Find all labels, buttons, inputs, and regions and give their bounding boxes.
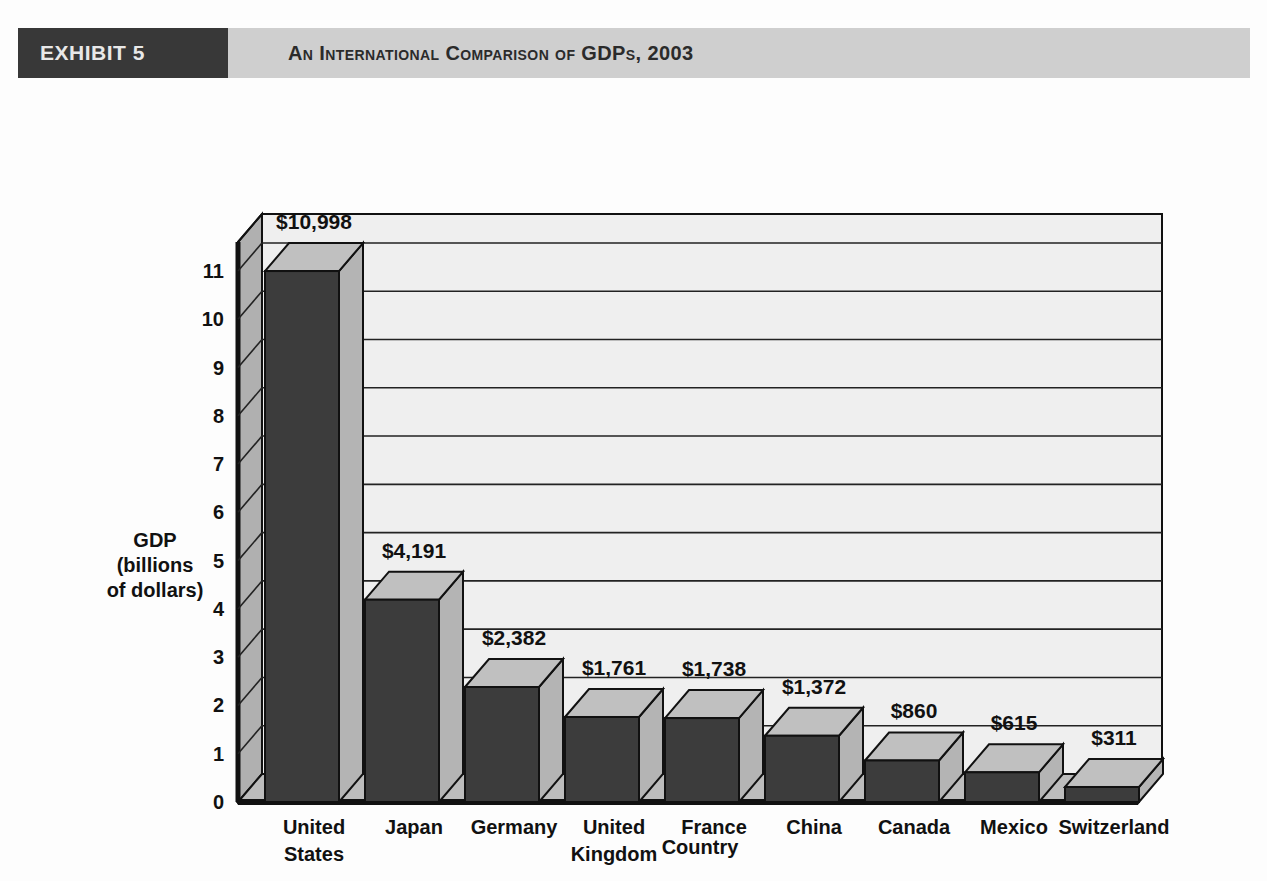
y-tick-label-2: 2: [213, 694, 224, 716]
x-tick-label: Mexico: [980, 816, 1048, 838]
bar-front-face: [265, 271, 339, 802]
y-tick-label-0: 0: [213, 791, 224, 813]
y-tick-label-5: 5: [213, 550, 224, 572]
bar-france: [665, 690, 763, 802]
bar-front-face: [765, 736, 839, 802]
exhibit-number-badge: EXHIBIT 5: [18, 28, 228, 78]
y-axis-title-line-3: of dollars): [107, 579, 204, 601]
x-tick-label: Switzerland: [1058, 816, 1169, 838]
x-tick-label: China: [786, 816, 842, 838]
x-axis-title: Country: [662, 836, 740, 858]
x-tick-label: France: [681, 816, 747, 838]
bar-front-face: [565, 717, 639, 802]
y-axis-title: GDP (billions of dollars): [107, 529, 204, 601]
bar-value-label: $4,191: [382, 539, 447, 562]
x-tick-label: Canada: [878, 816, 951, 838]
bar-value-label: $10,998: [276, 210, 352, 233]
gdp-bar-chart: 01234567891011 UnitedStatesJapanGermanyU…: [0, 86, 1267, 881]
bar-side-face: [439, 572, 463, 802]
y-tick-label-3: 3: [213, 646, 224, 668]
chart-container: 01234567891011 UnitedStatesJapanGermanyU…: [0, 86, 1267, 881]
bar-canada: [865, 732, 963, 802]
bar-front-face: [965, 772, 1039, 802]
bar-value-label: $2,382: [482, 626, 546, 649]
y-tick-label-10: 10: [202, 308, 224, 330]
y-tick-label-4: 4: [213, 598, 225, 620]
bar-value-label: $1,372: [782, 675, 846, 698]
bar-front-face: [465, 687, 539, 802]
bar-china: [765, 708, 863, 802]
bar-japan: [365, 572, 463, 802]
y-tick-label-7: 7: [213, 453, 224, 475]
exhibit-title: An International Comparison of GDPs, 200…: [228, 42, 694, 65]
exhibit-number-label: EXHIBIT 5: [18, 41, 145, 65]
y-axis-tick-labels: 01234567891011: [202, 260, 225, 813]
y-tick-label-8: 8: [213, 405, 224, 427]
x-tick-label: United: [583, 816, 645, 838]
bar-germany: [465, 659, 563, 802]
bar-front-face: [665, 718, 739, 802]
bar-united-states: [265, 243, 363, 802]
bar-value-label: $311: [1091, 726, 1137, 749]
y-axis-title-line-1: GDP: [133, 529, 176, 551]
y-tick-label-9: 9: [213, 357, 224, 379]
y-tick-label-6: 6: [213, 501, 224, 523]
x-tick-label: Kingdom: [571, 843, 658, 865]
bar-value-label: $615: [991, 711, 1038, 734]
y-tick-label-1: 1: [213, 743, 224, 765]
bar-united-kingdom: [565, 689, 663, 802]
x-tick-label: United: [283, 816, 345, 838]
bar-front-face: [365, 600, 439, 802]
bar-value-label: $860: [891, 699, 938, 722]
y-axis-title-line-2: (billions: [117, 554, 194, 576]
bar-front-face: [865, 760, 939, 802]
x-tick-label: States: [284, 843, 344, 865]
y-tick-label-11: 11: [203, 260, 224, 282]
bar-value-label: $1,761: [582, 656, 647, 679]
bar-front-face: [1065, 787, 1139, 802]
bar-side-face: [339, 243, 363, 802]
x-tick-label: Germany: [471, 816, 559, 838]
exhibit-title-bar: An International Comparison of GDPs, 200…: [228, 28, 1250, 78]
exhibit-header: EXHIBIT 5 An International Comparison of…: [18, 28, 1250, 78]
x-tick-label: Japan: [385, 816, 443, 838]
bar-value-label: $1,738: [682, 657, 747, 680]
